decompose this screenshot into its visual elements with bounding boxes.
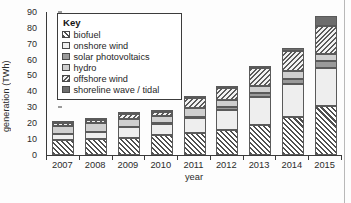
legend-item-offshore-wind[interactable]: offshore wind: [62, 73, 177, 84]
bar-segment-biofuel: [249, 125, 271, 155]
bar-segment-shoreline-wave-tidal: [184, 96, 206, 98]
legend-swatch-icon: [62, 53, 70, 61]
bar-segment-onshore-wind: [52, 134, 74, 140]
bar-segment-biofuel: [52, 140, 74, 155]
bar-segment-offshore-wind: [216, 88, 238, 100]
legend-item-label: onshore wind: [74, 41, 129, 51]
bar-segment-onshore-wind: [315, 68, 337, 106]
y-tick-label: 40: [27, 87, 37, 96]
legend-item-label: solar photovoltaics: [74, 52, 150, 62]
bar-segment-onshore-wind: [282, 84, 304, 117]
legend-item-shoreline-wave-tidal[interactable]: shoreline wave / tidal: [62, 84, 177, 95]
x-tick-mark: [308, 156, 309, 160]
bar-segment-offshore-wind: [52, 123, 74, 125]
bar-segment-hydro: [52, 126, 74, 134]
bar-segment-shoreline-wave-tidal: [151, 110, 173, 112]
bar-2014[interactable]: [282, 48, 304, 155]
x-axis-title: year: [46, 172, 342, 182]
x-tick-mark: [275, 156, 276, 160]
legend-swatch-icon: [62, 64, 70, 72]
bar-segment-onshore-wind: [118, 127, 140, 137]
legend-swatch-icon: [62, 42, 70, 50]
bar-segment-onshore-wind: [151, 124, 173, 135]
x-tick-mark: [79, 156, 80, 160]
y-axis-title: generation (TWh): [1, 46, 15, 146]
bar-segment-biofuel: [216, 130, 238, 154]
bar-2011[interactable]: [184, 97, 206, 154]
x-tick-label-2012: 2012: [216, 160, 237, 170]
y-tick-label: 90: [27, 8, 37, 17]
bar-segment-hydro: [249, 86, 271, 93]
legend-swatch-icon: [62, 86, 70, 94]
y-tick-label: 50: [27, 71, 37, 80]
bar-segment-biofuel: [184, 133, 206, 154]
legend-item-biofuel[interactable]: biofuel: [62, 29, 177, 40]
bar-2007[interactable]: [52, 123, 74, 154]
bar-segment-hydro: [85, 123, 107, 131]
bar-segment-shoreline-wave-tidal: [118, 112, 140, 114]
bar-segment-hydro: [184, 108, 206, 117]
bar-segment-shoreline-wave-tidal: [315, 16, 337, 25]
x-tick-label-2014: 2014: [281, 160, 302, 170]
bar-segment-biofuel: [85, 139, 107, 154]
y-tick-label: 80: [27, 23, 37, 32]
bar-segment-offshore-wind: [282, 51, 304, 71]
x-tick-label-2008: 2008: [85, 160, 106, 170]
bar-2008[interactable]: [85, 120, 107, 155]
bar-segment-solar-photovoltaics: [282, 79, 304, 84]
legend-item-label: biofuel: [74, 30, 101, 40]
x-tick-mark: [112, 156, 113, 160]
bar-segment-biofuel: [118, 138, 140, 155]
x-tick-label-2007: 2007: [52, 160, 73, 170]
legend-item-label: shoreline wave / tidal: [74, 85, 160, 95]
y-axis-tick-labels: 0102030405060708090: [16, 12, 42, 154]
bar-2013[interactable]: [249, 66, 271, 154]
bar-segment-biofuel: [315, 106, 337, 154]
bar-segment-onshore-wind: [249, 97, 271, 125]
bar-segment-offshore-wind: [315, 26, 337, 54]
bar-segment-solar-photovoltaics: [249, 93, 271, 97]
bar-segment-hydro: [282, 71, 304, 79]
bar-segment-offshore-wind: [184, 98, 206, 108]
y-tick-label: 20: [27, 118, 37, 127]
y-tick-label: 10: [27, 134, 37, 143]
bar-segment-offshore-wind: [249, 68, 271, 85]
bar-segment-biofuel: [151, 135, 173, 155]
legend-item-label: offshore wind: [74, 74, 128, 84]
legend-item-solar-photovoltaics[interactable]: solar photovoltaics: [62, 51, 177, 62]
bar-segment-offshore-wind: [151, 112, 173, 115]
bar-segment-solar-photovoltaics: [315, 61, 337, 68]
x-axis-tick-labels: 200720082009201020112012201320142015: [46, 156, 342, 170]
x-tick-label-2015: 2015: [314, 160, 335, 170]
x-tick-label-2010: 2010: [150, 160, 171, 170]
bar-2010[interactable]: [151, 112, 173, 154]
bar-segment-hydro: [315, 54, 337, 62]
legend-title: Key: [63, 17, 177, 28]
legend-item-hydro[interactable]: hydro: [62, 62, 177, 73]
x-tick-mark: [243, 156, 244, 160]
x-tick-label-2013: 2013: [249, 160, 270, 170]
bar-2012[interactable]: [216, 86, 238, 154]
legend-swatch-icon: [62, 75, 70, 83]
bar-segment-offshore-wind: [85, 120, 107, 123]
bar-segment-onshore-wind: [85, 132, 107, 139]
y-tick-label: 30: [27, 103, 37, 112]
bar-segment-solar-photovoltaics: [216, 107, 238, 110]
x-tick-mark: [144, 156, 145, 160]
bar-segment-shoreline-wave-tidal: [249, 66, 271, 68]
bar-2009[interactable]: [118, 114, 140, 155]
y-tick-label: 0: [32, 150, 37, 159]
y-tick-label: 60: [27, 55, 37, 64]
x-tick-mark: [177, 156, 178, 160]
x-tick-mark: [341, 156, 342, 160]
bar-segment-onshore-wind: [216, 110, 238, 130]
legend-swatch-icon: [62, 31, 70, 39]
legend-item-onshore-wind[interactable]: onshore wind: [62, 40, 177, 51]
bar-segment-offshore-wind: [118, 114, 140, 119]
bar-2015[interactable]: [315, 16, 337, 154]
legend-item-list: biofuelonshore windsolar photovoltaicshy…: [62, 29, 177, 95]
bar-segment-onshore-wind: [184, 118, 206, 133]
page-right-rule: [344, 0, 345, 203]
chart-page: generation (TWh) 0102030405060708090 200…: [0, 0, 351, 203]
legend-item-label: hydro: [74, 63, 97, 73]
